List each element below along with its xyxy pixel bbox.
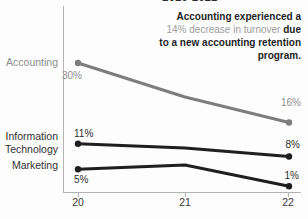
- information-technology-endpoint-marker: [286, 153, 292, 159]
- turnover-line-chart: 2020-2022 Accounting experienced a 14% d…: [0, 0, 308, 219]
- chart-lines-canvas: [0, 0, 308, 219]
- information-technology-line: [78, 144, 289, 157]
- marketing-endpoint-marker: [75, 166, 81, 172]
- marketing-line: [78, 165, 289, 186]
- marketing-endpoint-marker: [286, 183, 292, 189]
- information-technology-endpoint-marker: [75, 141, 81, 147]
- accounting-endpoint-marker: [286, 119, 292, 125]
- accounting-endpoint-marker: [75, 60, 81, 66]
- accounting-line: [78, 63, 289, 123]
